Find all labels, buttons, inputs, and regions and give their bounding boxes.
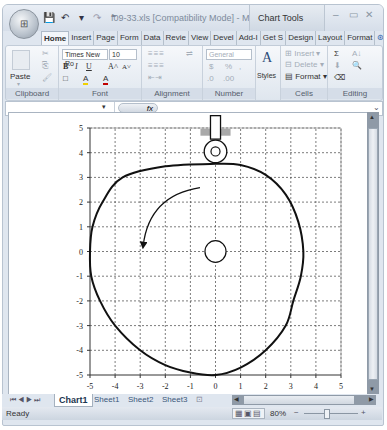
- rotation-direction-arrow-icon: [143, 188, 200, 246]
- zoom-slider-thumb[interactable]: [324, 409, 330, 419]
- insert-cells-button[interactable]: ⊞ Insert ▾: [285, 49, 320, 58]
- font-color-button[interactable]: A: [103, 74, 108, 85]
- scroll-down-icon[interactable]: ▼: [369, 386, 375, 392]
- svg-text:1: 1: [239, 382, 243, 391]
- styles-icon[interactable]: A: [262, 50, 272, 66]
- svg-text:5: 5: [339, 382, 343, 391]
- font-name-select[interactable]: Times New Ro: [62, 49, 108, 60]
- paste-dropdown-icon[interactable]: ▾: [17, 80, 20, 87]
- follower-stem: [210, 116, 220, 139]
- undo-icon[interactable]: ↶: [59, 12, 71, 24]
- comma-button[interactable]: ,: [239, 62, 241, 71]
- scroll-up-icon[interactable]: ▲: [369, 114, 375, 120]
- svg-text:-2: -2: [162, 382, 169, 391]
- border-button[interactable]: □: [63, 74, 68, 83]
- roller-pin: [211, 147, 220, 156]
- increase-decimal-button[interactable]: .0: [207, 74, 214, 83]
- top-align-buttons[interactable]: ≡≡≡: [148, 49, 165, 58]
- tab-formulas[interactable]: Form: [118, 31, 142, 45]
- italic-button[interactable]: I: [75, 62, 78, 71]
- maximize-icon[interactable]: ▭: [349, 9, 358, 20]
- fill-color-button[interactable]: A: [83, 74, 88, 85]
- paste-button[interactable]: Paste: [10, 72, 30, 81]
- window-title: f09-33.xls [Compatibility Mode] - Mi...: [111, 13, 259, 23]
- copy-icon[interactable]: ⎘: [42, 61, 48, 71]
- sheet-nav-arrows[interactable]: ⏮◀▶⏭: [10, 396, 42, 404]
- svg-text:-1: -1: [76, 272, 83, 281]
- zoom-out-button[interactable]: −: [294, 408, 299, 417]
- grow-font-button[interactable]: A˄: [108, 62, 118, 71]
- sort-filter-button[interactable]: A↓: [352, 49, 361, 58]
- horizontal-align-buttons[interactable]: ≡≡≡: [148, 61, 165, 70]
- paste-icon[interactable]: [12, 50, 30, 70]
- tab-layout[interactable]: Layout: [316, 31, 345, 45]
- vertical-scrollbar[interactable]: ▲ ▼: [367, 112, 379, 394]
- svg-text:5: 5: [79, 124, 83, 133]
- number-group: General $ % , .0 .00 Number: [203, 46, 256, 100]
- svg-text:-3: -3: [76, 322, 83, 331]
- format-cells-button[interactable]: ▤ Format ▾: [285, 72, 327, 81]
- tab-design[interactable]: Design: [286, 31, 316, 45]
- sheet-tab-chart1[interactable]: Chart1: [54, 394, 93, 407]
- save-icon[interactable]: 💾: [43, 12, 55, 24]
- tab-format[interactable]: Format: [345, 31, 375, 45]
- scroll-left-icon[interactable]: ◀: [234, 395, 239, 402]
- sheet-tab-bar: ⏮◀▶⏭ Chart1 Sheet1 Sheet2 Sheet3 ⊡ ◀ ▶: [2, 394, 382, 407]
- minimize-icon[interactable]: –: [333, 9, 339, 20]
- delete-cells-button[interactable]: ⊟ Delete ▾: [285, 60, 324, 69]
- zoom-in-button[interactable]: +: [361, 408, 366, 417]
- underline-button[interactable]: U: [86, 62, 92, 71]
- tab-view[interactable]: View: [189, 31, 211, 45]
- format-painter-icon[interactable]: 🖌: [42, 73, 52, 82]
- tab-page-layout[interactable]: Page: [94, 31, 118, 45]
- horizontal-scroll-thumb[interactable]: [244, 396, 354, 404]
- name-box-dropdown-icon[interactable]: ▾: [102, 103, 106, 111]
- expand-formula-bar-icon[interactable]: ⌄: [373, 103, 380, 112]
- sheet-tab-sheet1[interactable]: Sheet1: [90, 394, 123, 406]
- office-button[interactable]: ⊞: [9, 9, 39, 39]
- scroll-right-icon[interactable]: ▶: [369, 395, 374, 402]
- bold-button[interactable]: B: [63, 62, 68, 71]
- chart-sheet[interactable]: .... -5-4-3-2-1012345543210-1-2-3-4-5: [8, 112, 368, 396]
- fill-button[interactable]: ⬇: [334, 61, 341, 70]
- currency-button[interactable]: $: [209, 62, 213, 71]
- indent-buttons[interactable]: ⇤⇥: [148, 73, 162, 82]
- redo-icon[interactable]: ↷: [91, 12, 103, 24]
- quick-access-toolbar: 💾 ↶ ▾ ↷ ⁼: [43, 10, 119, 26]
- wrap-text-icon[interactable]: ⇌: [186, 49, 193, 58]
- tab-home[interactable]: Home: [41, 31, 69, 45]
- svg-text:-5: -5: [76, 371, 83, 380]
- find-select-button[interactable]: 🔍: [352, 61, 362, 70]
- tab-get-started[interactable]: Get S: [261, 31, 286, 45]
- svg-text:1: 1: [79, 223, 83, 232]
- decrease-decimal-button[interactable]: .00: [223, 74, 234, 83]
- close-icon[interactable]: ✕: [365, 9, 373, 20]
- cut-icon[interactable]: ✂: [42, 49, 49, 58]
- font-size-select[interactable]: 10: [109, 49, 137, 60]
- zoom-slider-track[interactable]: [304, 413, 358, 414]
- zoom-level[interactable]: 80%: [270, 409, 286, 418]
- tab-data[interactable]: Data: [142, 31, 164, 45]
- tab-developer[interactable]: Devel: [211, 31, 236, 45]
- tab-insert[interactable]: Insert: [69, 31, 94, 45]
- percent-button[interactable]: %: [225, 62, 232, 71]
- sheet-tab-sheet3[interactable]: Sheet3: [158, 394, 191, 406]
- chart-tools-label: Chart Tools: [249, 5, 325, 31]
- shrink-font-button[interactable]: A˅: [122, 63, 131, 71]
- font-group: Times New Ro 10 B I U A˄ A˅ □ A A Font: [59, 46, 142, 100]
- help-icon[interactable]: ⊛: [375, 31, 384, 45]
- horizontal-scrollbar[interactable]: ◀ ▶: [232, 395, 376, 405]
- tab-add-ins[interactable]: Add-I: [237, 31, 261, 45]
- tab-review[interactable]: Revie: [164, 31, 189, 45]
- svg-text:-1: -1: [187, 382, 194, 391]
- number-format-select[interactable]: General: [206, 49, 252, 60]
- sheet-tab-sheet2[interactable]: Sheet2: [124, 394, 157, 406]
- styles-button[interactable]: Styles: [257, 72, 276, 79]
- clear-button[interactable]: ⌫: [334, 73, 345, 82]
- undo-dropdown-icon[interactable]: ▾: [75, 12, 87, 24]
- view-buttons[interactable]: ▦▣▤: [232, 408, 265, 419]
- autosum-button[interactable]: Σ: [334, 49, 339, 58]
- insert-sheet-icon[interactable]: ⊡: [192, 394, 207, 406]
- clipboard-group: Paste ▾ ✂ ⎘ 🖌 Clipboard: [6, 46, 59, 100]
- vertical-scroll-thumb[interactable]: [368, 128, 378, 380]
